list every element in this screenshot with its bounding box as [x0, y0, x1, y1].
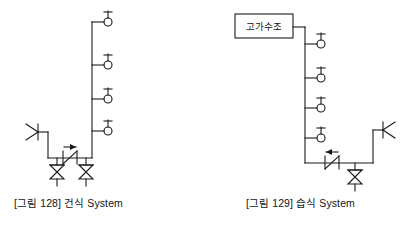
nozzle-icon	[26, 124, 48, 140]
sprinkler-branch-4	[305, 127, 325, 142]
sprinkler-branch-3	[92, 88, 112, 103]
figure-wet-system	[235, 14, 395, 191]
figure-dry-system	[26, 11, 112, 186]
sprinkler-head-icon	[317, 67, 325, 82]
sprinkler-head-icon	[317, 127, 325, 142]
sprinkler-branch-4	[92, 120, 112, 135]
flow-arrow-icon	[64, 144, 76, 150]
sprinkler-head-icon	[317, 97, 325, 112]
water-tank-label: 고가수조	[246, 21, 282, 32]
sprinkler-head-icon	[104, 54, 112, 69]
piping-diagram-canvas: 고가수조	[0, 0, 410, 226]
sprinkler-branch-1	[305, 33, 325, 48]
sprinkler-branch-2	[305, 67, 325, 82]
gate-valve-right-icon	[79, 158, 93, 186]
gate-valve-left-icon	[50, 158, 64, 186]
sprinkler-head-icon	[104, 11, 112, 26]
sprinkler-branch-1	[92, 11, 112, 26]
caption-wet-system: [그림 129] 습식 System	[246, 195, 355, 210]
caption-dry-system: [그림 128] 건식 System	[14, 195, 123, 210]
sprinkler-head-icon	[104, 88, 112, 103]
flow-arrow-icon	[326, 149, 338, 155]
sprinkler-branch-3	[305, 97, 325, 112]
sprinkler-head-icon	[104, 120, 112, 135]
sprinkler-head-icon	[317, 33, 325, 48]
nozzle-icon	[383, 122, 395, 138]
sprinkler-branch-2	[92, 54, 112, 69]
gate-valve-bottom-icon	[348, 163, 362, 191]
